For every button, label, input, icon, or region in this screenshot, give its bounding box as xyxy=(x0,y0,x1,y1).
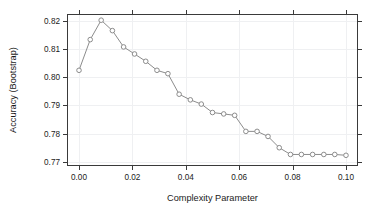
data-point-11 xyxy=(199,102,204,107)
data-point-8 xyxy=(166,71,171,76)
data-point-20 xyxy=(299,152,304,157)
chart-container: 0.000.020.040.060.080.10 0.770.780.790.8… xyxy=(0,0,382,209)
data-point-21 xyxy=(310,152,315,157)
data-point-4 xyxy=(121,45,126,50)
x-axis-title: Complexity Parameter xyxy=(167,193,258,203)
x-tick-label-3: 0.06 xyxy=(231,173,247,182)
data-point-22 xyxy=(322,152,327,157)
x-tick-label-4: 0.08 xyxy=(285,173,301,182)
data-point-14 xyxy=(232,113,237,118)
data-point-18 xyxy=(277,145,282,150)
data-point-6 xyxy=(143,59,148,64)
data-point-10 xyxy=(188,98,193,103)
data-point-13 xyxy=(221,112,226,117)
x-tick-label-1: 0.02 xyxy=(124,173,140,182)
y-axis-title: Accuracy (Bootstrap) xyxy=(8,47,18,133)
x-tick-label-5: 0.10 xyxy=(338,173,354,182)
data-point-9 xyxy=(177,92,182,97)
y-tick-label-4: 0.81 xyxy=(44,45,60,54)
y-tick-label-1: 0.78 xyxy=(44,130,60,139)
y-tick-label-3: 0.80 xyxy=(44,73,60,82)
y-tick-label-2: 0.79 xyxy=(44,101,60,110)
data-point-19 xyxy=(288,152,293,157)
y-tick-label-0: 0.77 xyxy=(44,158,60,167)
x-tick-label-2: 0.04 xyxy=(178,173,194,182)
x-tick-label-0: 0.00 xyxy=(71,173,87,182)
data-point-24 xyxy=(344,153,349,158)
data-point-3 xyxy=(110,28,115,33)
data-point-12 xyxy=(210,110,215,115)
data-point-7 xyxy=(155,68,160,73)
data-point-15 xyxy=(244,129,249,134)
y-tick-label-5: 0.82 xyxy=(44,17,60,26)
accuracy-vs-complexity-line-chart: 0.000.020.040.060.080.10 0.770.780.790.8… xyxy=(0,0,382,209)
data-point-17 xyxy=(266,134,271,139)
data-point-23 xyxy=(332,152,337,157)
data-point-16 xyxy=(255,129,260,134)
data-point-1 xyxy=(88,37,93,42)
data-point-0 xyxy=(77,68,82,73)
data-point-2 xyxy=(99,18,104,23)
data-point-5 xyxy=(132,52,137,57)
